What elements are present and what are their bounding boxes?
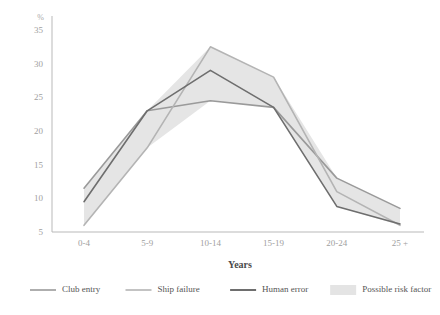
x-axis-tick-label: 5-9 [141, 238, 153, 248]
legend-item-label: Club entry [62, 284, 101, 294]
y-axis-tick-label: 35 [34, 25, 44, 35]
x-axis-tick-label: 25 + [392, 238, 408, 248]
legend-item-club-entry[interactable]: Club entry [30, 284, 101, 294]
legend-item-human-error[interactable]: Human error [230, 284, 308, 294]
chart-container: 5101520253035 0-45-910-1415-1920-2425 + … [0, 0, 440, 315]
y-axis-tick-label: 30 [34, 59, 44, 69]
y-axis-tick-label: 15 [34, 160, 44, 170]
y-axis-tick-label: 25 [34, 92, 44, 102]
x-axis-title: Years [228, 259, 252, 270]
legend-item-label: Ship failure [158, 284, 200, 294]
legend: Club entryShip failureHuman errorPossibl… [30, 284, 431, 295]
legend-item-label: Possible risk factor [362, 284, 431, 294]
legend-item-possible-risk-factor[interactable]: Possible risk factor [330, 284, 431, 295]
x-axis-tick-label: 10-14 [200, 238, 221, 248]
possible-risk-factor-band [84, 47, 400, 226]
y-axis-unit-label: % [37, 13, 44, 22]
x-axis: 0-45-910-1415-1920-2425 + [52, 232, 424, 248]
x-axis-tick-label: 20-24 [326, 238, 347, 248]
y-axis-tick-label: 10 [34, 193, 44, 203]
x-axis-tick-label: 15-19 [263, 238, 284, 248]
legend-item-ship-failure[interactable]: Ship failure [126, 284, 200, 294]
legend-swatch-icon [330, 285, 356, 295]
risk-band-layer [84, 47, 400, 226]
legend-item-label: Human error [262, 284, 308, 294]
line-chart: 5101520253035 0-45-910-1415-1920-2425 + … [0, 0, 440, 315]
y-axis: 5101520253035 [34, 16, 52, 237]
y-axis-tick-label: 5 [39, 227, 44, 237]
x-axis-tick-label: 0-4 [78, 238, 90, 248]
y-axis-tick-label: 20 [34, 126, 44, 136]
